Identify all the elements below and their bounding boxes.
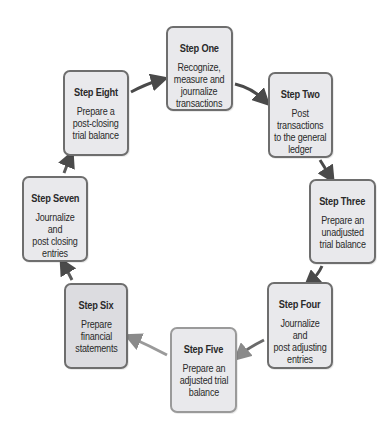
- step-five-description: Prepare an adjusted trial balance: [178, 363, 228, 399]
- step-two-title: Step Two: [281, 88, 320, 100]
- arrow-two-to-three: [320, 160, 330, 176]
- step-one-description: Recognize, measure and journalize transa…: [173, 62, 225, 110]
- step-one-box: Step One Recognize, measure and journali…: [166, 26, 233, 111]
- arrow-seven-to-eight: [64, 158, 70, 173]
- step-two-box: Step Two Post transactions to the genera…: [268, 72, 333, 158]
- step-four-title: Step Four: [279, 298, 321, 310]
- arrow-three-to-four: [310, 266, 322, 282]
- step-five-title: Step Five: [184, 343, 224, 355]
- step-two-description: Post transactions to the general ledger: [273, 108, 327, 156]
- step-one-title: Step One: [180, 42, 219, 54]
- arrow-eight-to-one: [131, 80, 160, 92]
- arrow-six-to-seven: [64, 265, 72, 280]
- step-eight-box: Step Eight Prepare a post-closing trial …: [63, 70, 129, 156]
- arrow-one-to-two: [235, 84, 264, 100]
- step-seven-description: Journalize and post closing entries: [27, 212, 83, 260]
- step-three-title: Step Three: [319, 195, 365, 207]
- step-four-description: Journalize and post adjusting entries: [272, 318, 328, 366]
- step-three-description: Prepare an unadjusted trial balance: [318, 215, 366, 251]
- step-six-box: Step Six Prepare financial statements: [64, 283, 128, 369]
- step-eight-title: Step Eight: [74, 86, 118, 98]
- step-six-title: Step Six: [78, 299, 113, 311]
- step-seven-box: Step Seven Journalize and post closing e…: [22, 176, 88, 262]
- step-seven-title: Step Seven: [31, 192, 79, 204]
- step-six-description: Prepare financial statements: [74, 319, 118, 355]
- step-five-box: Step Five Prepare an adjusted trial bala…: [170, 327, 237, 413]
- step-four-box: Step Four Journalize and post adjusting …: [267, 282, 333, 369]
- step-three-box: Step Three Prepare an unadjusted trial b…: [309, 179, 376, 264]
- arrow-five-to-six: [132, 338, 167, 355]
- arrow-four-to-five: [240, 340, 264, 355]
- step-eight-description: Prepare a post-closing trial balance: [72, 106, 120, 142]
